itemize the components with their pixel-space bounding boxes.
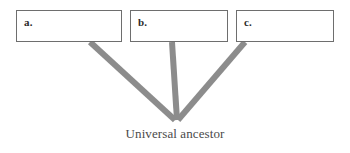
root-caption-label: Universal ancestor [0,126,350,142]
phylogenetic-tree-figure: a. b. c. Universal ancestor [0,0,350,153]
taxon-label-a: a. [24,15,33,29]
taxon-label-c: c. [244,15,252,29]
taxon-box-b[interactable]: b. [130,10,228,42]
taxon-box-a[interactable]: a. [16,10,122,42]
taxon-label-b: b. [138,15,147,29]
branch-line-c [178,42,245,120]
branch-line-a [90,42,175,120]
taxon-box-c[interactable]: c. [236,10,334,42]
branch-line-b [172,42,177,120]
